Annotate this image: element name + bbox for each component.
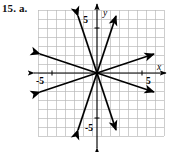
answer-figure-panel: 15. a. [0, 0, 170, 152]
x-tick-label-positive-5: 5 [146, 76, 151, 86]
y-tick-label-positive-5: 5 [83, 15, 88, 25]
coordinate-plane-figure: y x 5 -5 -5 5 [0, 0, 170, 152]
graph-svg: y x 5 -5 -5 5 [0, 0, 170, 152]
x-axis-label: x [156, 62, 162, 72]
y-tick-label-negative-5: -5 [85, 123, 93, 133]
x-tick-label-negative-5: -5 [36, 76, 44, 86]
y-axis-label: y [102, 8, 108, 18]
